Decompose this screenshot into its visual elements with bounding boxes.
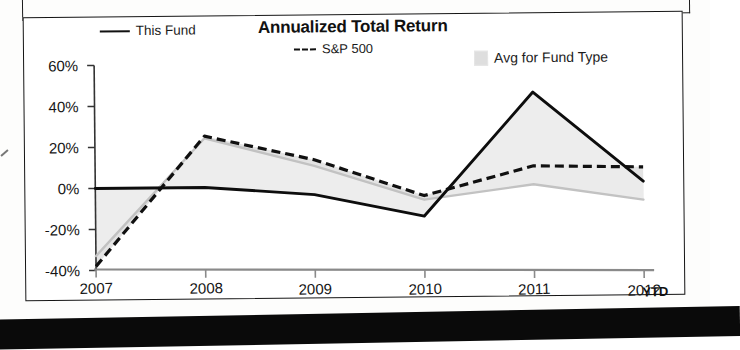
y-axis-tick-label: -40% <box>45 262 80 279</box>
page-margin-mark <box>0 149 8 156</box>
legend-label-sp500: S&P 500 <box>322 41 373 56</box>
x-axis-labels: 200720082009201020112012 <box>88 268 678 304</box>
y-axis-tick-label: 40% <box>48 98 78 115</box>
legend-label-this-fund: This Fund <box>136 23 196 39</box>
solid-line-swatch <box>100 30 130 32</box>
chart-svg <box>86 60 658 270</box>
plot-area <box>86 60 658 270</box>
y-axis-tick-label: -20% <box>45 221 80 238</box>
dashed-line-swatch <box>294 48 316 50</box>
legend-item-this-fund: This Fund <box>100 23 196 39</box>
x-axis-tick-label: 2008 <box>189 279 223 297</box>
x-axis-tick-label: 2009 <box>299 280 333 298</box>
y-axis-line <box>94 65 96 270</box>
y-axis-tick-label: 20% <box>49 139 79 156</box>
x-axis-ytd-note: YTD <box>642 284 668 300</box>
chart-panel: Annualized Total Return This Fund S&P 50… <box>23 11 686 301</box>
y-axis-labels: 60%40%20%0%-20%-40% <box>22 66 84 272</box>
x-axis-tick-label: 2007 <box>79 279 113 297</box>
y-axis-tick-label: 0% <box>58 180 80 197</box>
legend-item-sp500: S&P 500 <box>294 41 373 57</box>
page-edge-artifact-bottom <box>0 306 740 350</box>
x-axis-tick-label: 2010 <box>408 280 442 298</box>
y-axis-tick-label: 60% <box>48 57 78 74</box>
x-axis-tick-label: 2011 <box>518 280 551 298</box>
